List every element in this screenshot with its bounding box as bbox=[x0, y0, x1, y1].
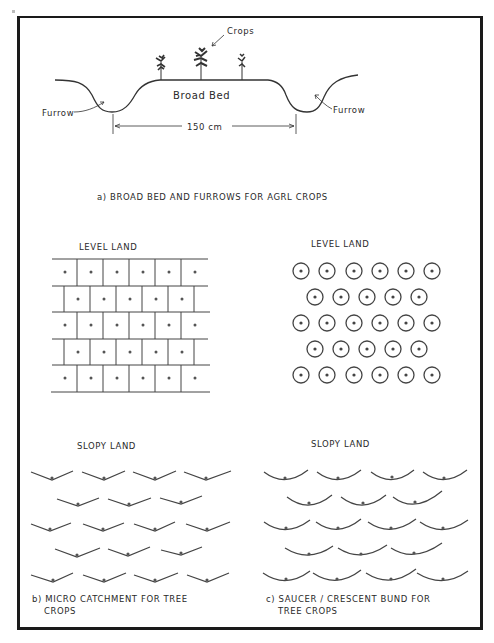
panel-b-caption-line1: b) MICRO CATCHMENT FOR TREE bbox=[32, 594, 188, 604]
panel-a-broad-bed-furrow bbox=[55, 35, 358, 134]
furrow-left-label: Furrow bbox=[42, 108, 74, 118]
crop-plant-icon bbox=[156, 48, 245, 80]
panel-c-caption-line1: c) SAUCER / CRESCENT BUND FOR bbox=[266, 594, 430, 604]
panel-b-caption-line2: CROPS bbox=[44, 606, 76, 616]
slopy-land-title-right: SLOPY LAND bbox=[311, 439, 370, 449]
panel-c-caption-line2: TREE CROPS bbox=[277, 606, 338, 616]
crescent-bunds bbox=[263, 470, 468, 581]
slopy-land-title-left: SLOPY LAND bbox=[77, 441, 136, 451]
micro-catchment-tree-dots bbox=[48, 476, 208, 581]
crescent-bund-tree-dots bbox=[283, 475, 445, 580]
level-land-title-left: LEVEL LAND bbox=[79, 242, 137, 252]
diagram-canvas: Crops Broad Bed Furrow Furrow 150 cm a) … bbox=[0, 0, 494, 643]
width-dimension-label: 150 cm bbox=[187, 122, 222, 132]
furrow-right-label: Furrow bbox=[333, 105, 365, 115]
crops-label: Crops bbox=[227, 26, 254, 36]
tree-pit-dots bbox=[64, 271, 197, 380]
panel-a-caption: a) BROAD BED AND FURROWS FOR AGRL CROPS bbox=[97, 192, 328, 202]
micro-catchment-v-bunds bbox=[31, 471, 231, 582]
level-land-title-right: LEVEL LAND bbox=[311, 239, 369, 249]
brick-grid-level-land bbox=[51, 259, 210, 392]
ring-basins-level-land bbox=[293, 263, 440, 383]
broad-bed-label: Broad Bed bbox=[173, 90, 230, 101]
